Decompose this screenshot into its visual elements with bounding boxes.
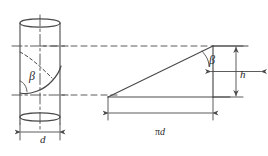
helix-angle-figure: β β d πd h	[0, 0, 268, 156]
diameter-label: d	[40, 134, 46, 145]
cylinder-beta-arc	[20, 81, 27, 92]
circumference-label: πd	[155, 127, 165, 137]
triangle-beta-arc	[202, 51, 209, 66]
circumference-dimension	[108, 97, 213, 120]
triangle-helix-angle-label: β	[209, 54, 215, 66]
height-label: h	[240, 69, 246, 80]
helix-back-curve	[20, 52, 52, 78]
helix-front-curve	[20, 66, 61, 94]
circumference-d-symbol: d	[160, 126, 165, 137]
cylinder-helix-angle-label: β	[29, 70, 35, 82]
